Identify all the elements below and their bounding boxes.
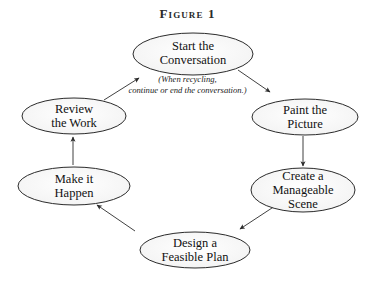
arrow-design-to-make	[97, 205, 135, 231]
node-ellipse-start-the-conversation[interactable]	[133, 33, 253, 75]
figure-diagram: Figure 1 Start the	[0, 0, 375, 282]
node-ellipse-create-a-manageable-scene[interactable]	[251, 168, 355, 212]
recycling-annotation: (When recycling, continue or end the con…	[95, 74, 280, 95]
node-ellipse-review-the-work[interactable]	[22, 98, 126, 134]
node-ellipse-make-it-happen[interactable]	[18, 167, 130, 205]
arrow-create-to-design	[240, 206, 275, 229]
node-layer	[18, 33, 358, 268]
node-ellipse-design-a-feasible-plan[interactable]	[140, 232, 250, 268]
node-ellipse-paint-the-picture[interactable]	[252, 99, 358, 135]
diagram-canvas	[0, 0, 375, 282]
